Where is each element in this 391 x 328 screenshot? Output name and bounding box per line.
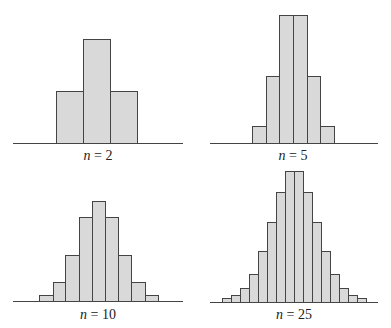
histogram-bar (66, 256, 80, 302)
histogram-bar (80, 218, 93, 302)
histogram-bar (308, 77, 321, 144)
histogram-bar (253, 127, 267, 144)
histogram-bar (331, 275, 340, 303)
histogram-bar (313, 223, 322, 303)
histogram-bar (294, 16, 308, 144)
histogram-bar (267, 77, 280, 144)
histogram-bar (268, 223, 277, 303)
panel-label: n = 5 (279, 148, 308, 163)
histogram-bar (232, 296, 241, 303)
histogram-bar (146, 296, 159, 302)
histogram-bar (295, 172, 304, 303)
histogram-bar (277, 193, 286, 303)
histogram-bar (132, 283, 146, 302)
histogram-bar (119, 256, 132, 302)
histogram-bar (349, 296, 358, 303)
histogram-bar (250, 275, 259, 303)
histogram-n-10: n = 10 (13, 202, 183, 323)
histogram-bar (322, 252, 331, 303)
histogram-bar (358, 299, 367, 303)
histogram-bar (84, 40, 111, 144)
histogram-bar (93, 202, 106, 302)
histogram-bar (111, 92, 138, 144)
panel-label: n = 10 (80, 307, 116, 322)
histogram-n-5: n = 5 (210, 16, 378, 164)
histogram-bar (280, 16, 294, 144)
histogram-bar (340, 289, 349, 303)
histogram-bar (286, 172, 295, 303)
histogram-bar (321, 127, 335, 144)
histogram-bar (259, 252, 268, 303)
histogram-bar (106, 218, 119, 302)
histogram-n-25: n = 25 (210, 172, 378, 323)
histogram-grid: n = 2 n = 5 n = 10 n = 25 (0, 0, 391, 328)
histogram-bar (57, 92, 84, 144)
histogram-bar (40, 296, 54, 302)
panel-label: n = 25 (276, 307, 312, 322)
histogram-bar (304, 193, 313, 303)
panel-label: n = 2 (84, 148, 113, 163)
histogram-bar (223, 299, 232, 303)
histogram-bar (241, 289, 250, 303)
histogram-bar (54, 283, 66, 302)
histogram-n-2: n = 2 (13, 40, 183, 164)
